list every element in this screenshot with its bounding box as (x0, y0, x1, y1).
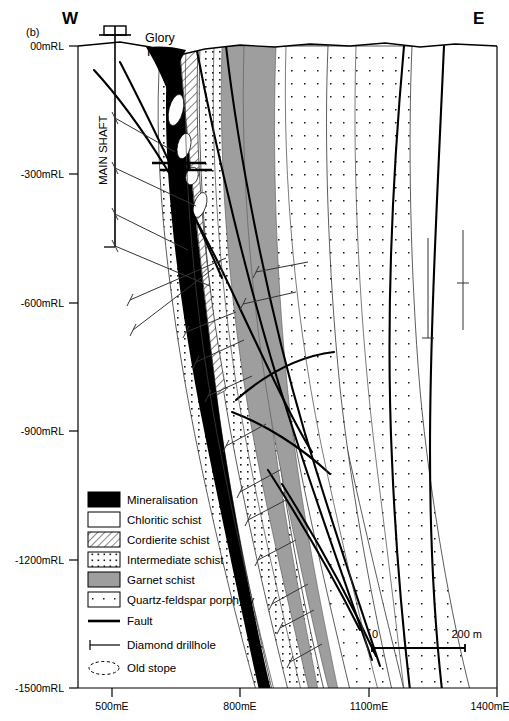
y-tick-label-0: 00mRL (30, 40, 64, 52)
legend-label-cordierite-schist: Cordierite schist (127, 534, 210, 546)
orientation-west-label: W (62, 9, 79, 28)
x-tick-label-800: 800mE (223, 700, 256, 712)
x-tick-label-500: 500mE (95, 700, 128, 712)
x-tick-group: 500mE 800mE 1100mE 1400mE (95, 688, 509, 712)
main-shaft-label: MAIN SHAFT (97, 115, 109, 185)
y-tick-label-600: -600mRL (21, 297, 64, 309)
x-tick-label-1100: 1100mE (350, 700, 388, 712)
scale-bar-start-label: 0 (372, 628, 378, 640)
legend-swatch-quartz-feldspar-porphyry (88, 592, 120, 607)
y-tick-label-900: -900mRL (21, 425, 64, 437)
glory-hole-label-line1: Glory (145, 31, 176, 45)
legend-label-fault: Fault (127, 615, 153, 627)
legend-label-chloritic-schist: Chloritic schist (127, 514, 202, 526)
y-tick-label-300: -300mRL (21, 168, 64, 180)
legend-swatch-intermediate-schist (88, 552, 120, 567)
legend-swatch-cordierite-schist (88, 532, 120, 547)
legend-swatch-chloritic-schist (88, 512, 120, 527)
x-tick-label-1400: 1400mE (470, 700, 509, 712)
y-tick-group: 00mRL -300mRL -600mRL -900mRL -1200mRL -… (15, 40, 78, 694)
legend-label-diamond-drillhole: Diamond drillhole (127, 639, 216, 651)
orientation-east-label: E (473, 9, 484, 28)
legend-swatch-garnet-schist (88, 572, 120, 587)
y-tick-label-1200: -1200mRL (15, 554, 64, 566)
y-tick-label-1500: -1500mRL (15, 682, 64, 694)
geology-body (78, 40, 498, 690)
panel-label: (b) (26, 26, 39, 38)
glory-hole-label-line2: Hole (147, 45, 173, 59)
legend-label-intermediate-schist: Intermediate schist (127, 554, 224, 566)
legend-label-mineralisation: Mineralisation (127, 494, 198, 506)
cross-section-svg: (b) W E (0, 0, 509, 721)
legend-label-quartz-feldspar-porphyry: Quartz-feldspar porphyry (127, 594, 254, 606)
scale-bar-end-label: 200 m (451, 628, 482, 640)
legend-swatch-old-stope (89, 662, 119, 675)
legend-swatch-mineralisation (88, 492, 120, 507)
cross-section-figure: (b) W E (0, 0, 509, 721)
legend-label-garnet-schist: Garnet schist (127, 574, 196, 586)
legend-label-old-stope: Old stope (127, 662, 176, 674)
